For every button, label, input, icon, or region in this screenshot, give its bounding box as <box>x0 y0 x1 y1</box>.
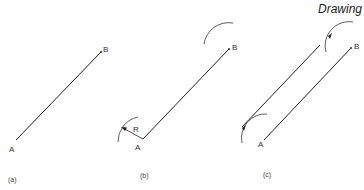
parallel-line <box>242 45 320 127</box>
radius-arrowhead <box>121 127 127 131</box>
caption-a: (a) <box>8 176 17 184</box>
radius-label: R <box>133 125 139 134</box>
point-b-marker <box>350 47 352 49</box>
point-b-marker <box>100 51 102 53</box>
arc-at-b <box>204 23 233 44</box>
line-ab <box>16 52 101 140</box>
arc-near-a <box>241 114 267 143</box>
label-a: A <box>9 145 15 154</box>
label-a: A <box>135 143 141 152</box>
panel-b: B A R (b) <box>118 23 237 180</box>
label-b: B <box>103 45 108 54</box>
label-b: B <box>232 43 237 52</box>
label-b: B <box>354 42 359 51</box>
panel-c: B A (c) <box>241 22 359 179</box>
line-ab <box>264 48 351 140</box>
caption-c: (c) <box>263 171 271 179</box>
line-ab <box>143 49 229 139</box>
caption-b: (b) <box>140 172 149 180</box>
label-a: A <box>258 140 264 149</box>
panel-a: B A (a) <box>8 45 108 184</box>
point-b-marker <box>228 48 230 50</box>
